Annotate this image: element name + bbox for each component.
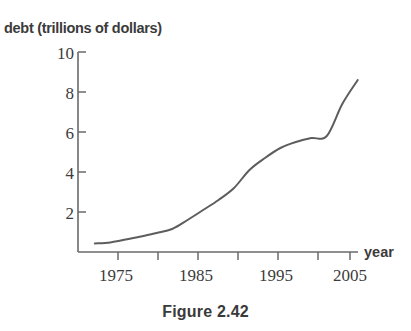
plot-area [0, 0, 411, 300]
x-axis-ticks [118, 252, 350, 260]
debt-line-series [95, 80, 358, 243]
y-axis-ticks [78, 52, 86, 212]
figure-caption: Figure 2.42 [0, 303, 411, 321]
figure-container: debt (trillions of dollars) 10 8 6 4 2 1… [0, 0, 411, 331]
